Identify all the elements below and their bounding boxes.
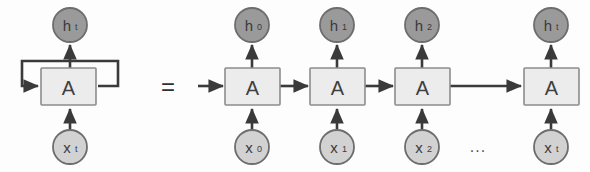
equals-sign: = [161,73,175,100]
timestep-2-group: A h 2 x 2 [395,8,450,164]
folded-input-label: x [63,139,71,156]
timestep-t-cell-label: A [545,77,559,99]
timestep-1-output-subscript: 1 [342,22,347,32]
timestep-0-output-label: h [245,17,253,34]
timestep-2-output-subscript: 2 [427,22,432,32]
timestep-0-output-subscript: 0 [257,22,262,32]
timestep-2-input-subscript: 2 [427,144,432,154]
timestep-t-group: A h t x t [524,8,579,164]
folded-rnn-group: A h t x t [22,8,118,164]
unrolled-rnn-group: A h 0 x 0 A h 1 x 1 [198,8,579,164]
timestep-2-input-label: x [415,139,423,156]
timestep-1-input-subscript: 1 [342,144,347,154]
timestep-1-cell-label: A [331,77,345,99]
timestep-0-cell-label: A [246,77,260,99]
rnn-cell-label: A [62,77,76,99]
sequence-ellipsis: ... [470,138,486,155]
timestep-1-group: A h 1 x 1 [310,8,365,164]
timestep-0-input-label: x [245,139,253,156]
timestep-2-output-label: h [415,17,423,34]
timestep-0-group: A h 0 x 0 [225,8,280,164]
timestep-1-input-label: x [330,139,338,156]
timestep-1-output-label: h [330,17,338,34]
timestep-0-input-subscript: 0 [257,144,262,154]
diagram-canvas: A h t x t = A h [0,0,590,172]
rnn-unroll-diagram: A h t x t = A h [0,0,590,172]
timestep-t-output-label: h [544,17,552,34]
timestep-2-cell-label: A [416,77,430,99]
folded-output-label: h [63,17,71,34]
timestep-t-input-label: x [544,139,552,156]
